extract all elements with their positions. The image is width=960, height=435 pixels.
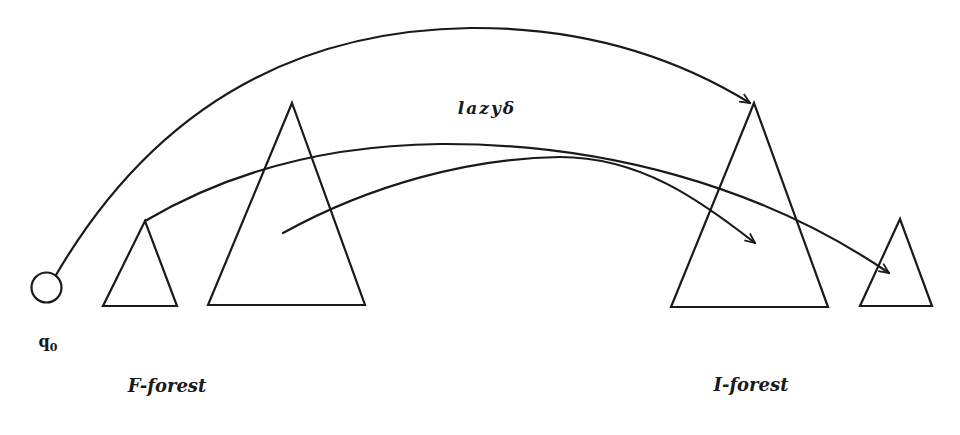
state-q0-circle [32, 273, 62, 303]
q0-label: q0 [39, 332, 58, 354]
i-forest-label: I-forest [713, 374, 788, 395]
forest-diagram [0, 0, 960, 435]
i-forest-small-tree [860, 219, 932, 306]
lazy-delta-arrow [56, 28, 750, 275]
f-large-to-i-large-arrow [283, 157, 755, 243]
q0-label-base: q [39, 332, 50, 351]
i-forest-large-tree [671, 103, 828, 307]
q0-label-subscript: 0 [50, 341, 58, 354]
f-forest-small-tree [103, 221, 177, 306]
f-small-to-i-small-arrow [145, 144, 889, 273]
f-forest-label: F-forest [128, 375, 207, 396]
lazy-delta-label: lazyδ [458, 98, 516, 118]
